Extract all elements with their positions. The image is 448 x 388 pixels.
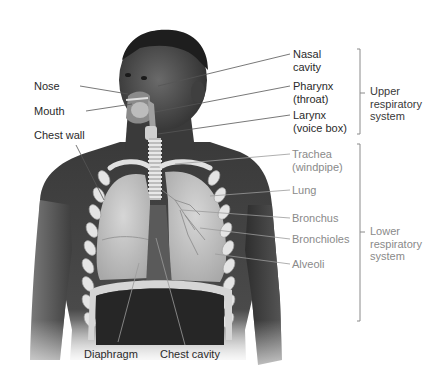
trachea [148,138,162,200]
trachea-ring [148,152,162,154]
label-text: (voice box) [293,122,347,135]
label-text: Nose [34,80,60,93]
label-text: Larynx [293,109,347,122]
group-text: system [370,110,422,123]
label-mouth: Mouth [34,105,65,118]
trachea-ring [148,184,162,186]
label-text: Chest cavity [160,348,220,361]
label-text: (throat) [293,93,333,106]
label-text: Mouth [34,105,65,118]
label-larynx: Larynx (voice box) [293,109,347,134]
label-bronchioles: Bronchioles [292,233,349,246]
trachea-ring [148,176,162,178]
label-alveoli: Alveoli [292,258,324,271]
group-text: Upper [370,85,422,98]
group-text: system [370,250,422,263]
label-pharynx: Pharynx (throat) [293,80,333,105]
label-text: Trachea [292,148,343,161]
lower-bracket [357,144,365,321]
leader-mouth [86,104,132,111]
anatomy-illustration [0,0,448,388]
respiratory-diagram: Nose Mouth Chest wall Nasal cavity Phary… [0,0,448,388]
label-text: Diaphragm [84,348,138,361]
trachea-ring [148,144,162,146]
trachea-ring [148,140,162,142]
label-bronchus: Bronchus [292,212,338,225]
trachea-ring [148,172,162,174]
label-text: Bronchus [292,212,338,225]
trachea-ring [148,192,162,194]
label-trachea: Trachea (windpipe) [292,148,343,173]
group-text: Lower [370,225,422,238]
trachea-ring [148,156,162,158]
group-lower-respiratory: Lower respiratory system [370,225,422,263]
label-chest-wall: Chest wall [34,129,85,142]
group-text: respiratory [370,98,422,111]
label-text: Alveoli [292,258,324,271]
trachea-ring [148,188,162,190]
label-nose: Nose [34,80,60,93]
label-chest-cavity: Chest cavity [160,348,220,361]
group-text: respiratory [370,238,422,251]
label-text: Pharynx [293,80,333,93]
upper-bracket [357,49,365,134]
label-diaphragm: Diaphragm [84,348,138,361]
trachea-ring [148,180,162,182]
label-text: Lung [292,184,316,197]
trachea-ring [148,168,162,170]
label-text: Bronchioles [292,233,349,246]
label-lung: Lung [292,184,316,197]
label-text: cavity [293,61,321,74]
label-text: Chest wall [34,129,85,142]
trachea-ring [148,196,162,198]
trachea-ring [148,148,162,150]
label-nasal-cavity: Nasal cavity [293,48,321,73]
trachea-ring [148,160,162,162]
group-upper-respiratory: Upper respiratory system [370,85,422,123]
label-text: Nasal [293,48,321,61]
label-text: (windpipe) [292,161,343,174]
